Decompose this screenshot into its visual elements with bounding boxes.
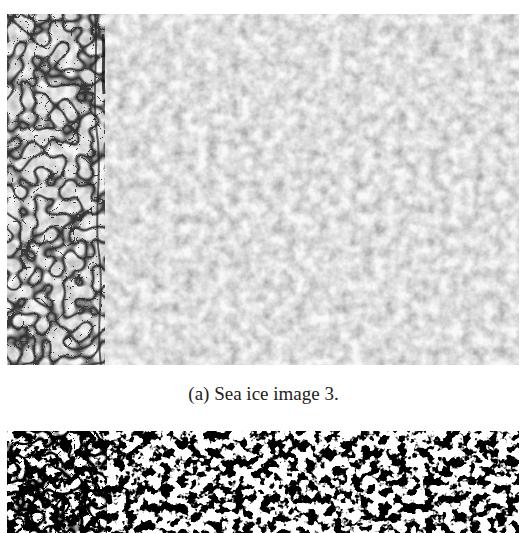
subfigure-caption-a: (a) Sea ice image 3. (0, 383, 527, 405)
binary-ice-texture (7, 431, 519, 533)
sea-ice-image (7, 14, 519, 365)
sea-ice-texture (7, 14, 519, 365)
binary-sea-ice-image (7, 431, 519, 533)
